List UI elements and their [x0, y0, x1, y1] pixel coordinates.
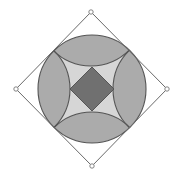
vertex-point-left — [14, 87, 18, 91]
vertex-point-right — [165, 87, 169, 91]
vertex-point-top — [89, 10, 93, 14]
geometry-figure — [0, 0, 178, 179]
diagram-canvas — [0, 0, 178, 179]
vertex-point-bottom — [90, 164, 94, 168]
